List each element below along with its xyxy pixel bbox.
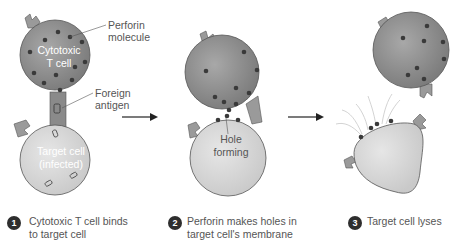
label-line: T cell [34,57,84,70]
label-line: Foreign [95,87,131,99]
step-1-caption: Cytotoxic T cell binds to target cell [29,215,128,241]
step-3-badge: 3 [348,216,362,230]
receptor-icon [14,120,30,137]
label-line: Hole [206,133,256,146]
tcell-2 [185,35,259,109]
label-line: Cytotoxic [34,44,84,57]
caption-line: to target cell [29,228,128,241]
right-arrow-icon [288,113,324,121]
step-1-badge: 1 [7,216,21,230]
label-line: Target cell [30,145,92,158]
diagram-canvas [0,0,467,250]
panel-3 [336,12,449,193]
label-line: Perforin [108,19,150,31]
step-3-caption: Target cell lyses [367,215,442,228]
caption-line: Target cell lyses [367,215,442,228]
caption-line: target cell's membrane [187,228,297,241]
label-perforin: Perforin molecule [108,19,150,43]
label-hole-forming: Hole forming [206,133,256,159]
label-line: (infected) [30,158,92,171]
cell-junction [50,92,66,128]
panel-2 [185,31,266,196]
label-foreign-antigen: Foreign antigen [95,87,131,111]
label-line: forming [206,146,256,159]
label-tcell: Cytotoxic T cell [34,44,84,70]
caption-line: Perforin makes holes in [187,215,297,228]
cell-junction [246,96,262,124]
label-target-cell: Target cell (infected) [30,145,92,171]
label-line: antigen [95,99,131,111]
caption-line: Cytotoxic T cell binds [29,215,128,228]
label-line: molecule [108,31,150,43]
tcell-3 [373,12,449,88]
right-arrow-icon [122,113,158,121]
step-2-badge: 2 [168,216,182,230]
step-2-caption: Perforin makes holes in target cell's me… [187,215,297,241]
lysed-target-cell [354,123,423,193]
